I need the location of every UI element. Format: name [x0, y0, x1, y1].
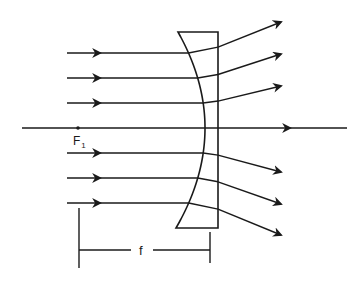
ray: [67, 54, 281, 78]
ray: [67, 22, 281, 53]
focal-point-label: F1: [73, 134, 86, 150]
focal-length-dimension: f: [79, 208, 210, 268]
focal-length-label: f: [139, 243, 143, 258]
ray-internal-segment: [198, 178, 218, 182]
ray-internal-segment: [189, 203, 218, 209]
lens: [176, 32, 218, 228]
plano-concave-lens: [176, 32, 218, 228]
ray-refracted-segment: [218, 22, 281, 47]
ray-refracted-segment: [218, 155, 281, 172]
ray-internal-segment: [203, 101, 218, 103]
ray-refracted-segment: [218, 54, 281, 74]
ray-internal-segment: [189, 47, 218, 53]
ray: [67, 153, 281, 172]
ray-internal-segment: [198, 74, 218, 78]
ray-refracted-segment: [218, 209, 281, 235]
diverging-lens-diagram: F1 f: [0, 0, 362, 286]
focal-point-dot: [76, 126, 80, 130]
ray-refracted-segment: [218, 86, 281, 101]
ray-refracted-segment: [218, 182, 281, 204]
ray: [67, 178, 281, 204]
focal-point-subscript: 1: [81, 141, 86, 150]
focal-point: F1: [73, 126, 86, 150]
ray-internal-segment: [203, 153, 218, 155]
ray: [67, 203, 281, 235]
ray: [67, 86, 281, 103]
